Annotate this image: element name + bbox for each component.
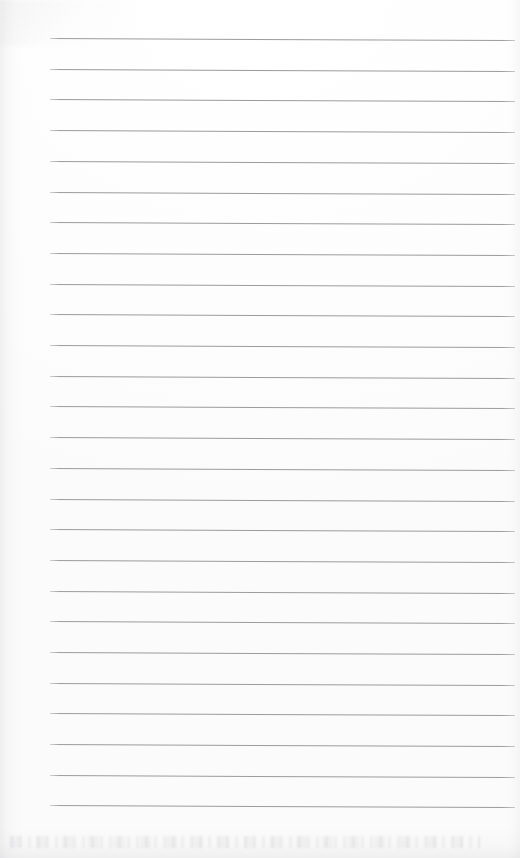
ruled-lines-layer — [0, 0, 520, 858]
rule-line — [50, 468, 515, 471]
rule-line — [50, 284, 515, 287]
scanned-page — [0, 0, 520, 858]
rule-line — [50, 253, 515, 256]
rule-line — [50, 499, 515, 502]
rule-line — [50, 621, 515, 624]
rule-line — [50, 376, 515, 379]
rule-line — [50, 437, 515, 440]
rule-line — [50, 345, 515, 348]
rule-line — [50, 314, 515, 317]
rule-line — [50, 591, 515, 594]
rule-line — [50, 713, 515, 716]
rule-line — [50, 222, 515, 225]
rule-line — [50, 192, 515, 195]
rule-line — [50, 683, 515, 686]
rule-line — [50, 560, 515, 563]
rule-line — [50, 744, 515, 747]
rule-line — [50, 652, 515, 655]
rule-line — [50, 406, 515, 409]
rule-line — [50, 38, 515, 41]
rule-line — [50, 805, 515, 808]
rule-line — [50, 775, 515, 778]
rule-line — [50, 69, 515, 72]
rule-line — [50, 130, 515, 133]
rule-line — [50, 99, 515, 102]
rule-line — [50, 529, 515, 532]
rule-line — [50, 161, 515, 164]
